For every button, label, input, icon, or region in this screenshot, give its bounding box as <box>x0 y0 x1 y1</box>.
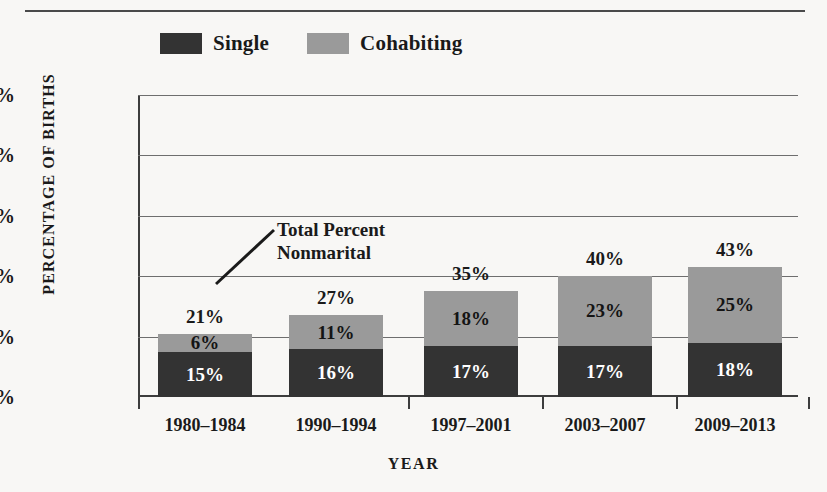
bar-group[interactable]: 18%25%43% <box>688 95 782 397</box>
bar-total-label: 21% <box>142 307 268 326</box>
chart-figure: Single Cohabiting PERCENTAGE OF BIRTHS 0… <box>0 0 827 492</box>
y-tick-label: 20% <box>0 327 15 347</box>
bar-segment-cohabiting[interactable]: 11% <box>289 315 383 348</box>
bar-segment-cohabiting[interactable]: 23% <box>558 276 652 345</box>
legend-swatch-icon-single <box>160 33 202 54</box>
bar-total-label: 27% <box>273 288 399 307</box>
bar-group[interactable]: 17%18%35% <box>424 95 518 397</box>
bar-segment-label: 15% <box>186 365 224 384</box>
bar-segment-label: 23% <box>586 301 624 320</box>
bar-segment-label: 17% <box>452 362 490 381</box>
bar-total-label: 40% <box>542 249 668 268</box>
top-rule-divider <box>25 10 805 12</box>
bar-segment-single[interactable]: 17% <box>558 346 652 397</box>
bar-segment-label: 6% <box>191 333 220 352</box>
bar-segment-cohabiting[interactable]: 6% <box>158 334 252 352</box>
bar-segment-label: 11% <box>318 323 355 342</box>
x-axis-tick <box>408 397 410 409</box>
x-axis-label: 1980–1984 <box>130 415 280 436</box>
x-axis-tick <box>138 397 140 409</box>
y-tick-label: 0% <box>0 387 15 407</box>
bar-segment-single[interactable]: 16% <box>289 349 383 397</box>
bar-segment-label: 18% <box>452 309 490 328</box>
bar-segment-label: 18% <box>716 360 754 379</box>
y-axis-title: PERCENTAGE OF BIRTHS <box>40 39 58 329</box>
legend-item-single[interactable]: Single <box>160 31 269 56</box>
annotation-label: Total Percent Nonmarital <box>277 218 385 264</box>
bar-total-label: 35% <box>408 264 534 283</box>
x-axis-title: YEAR <box>0 455 827 473</box>
bar-total-label: 43% <box>672 240 798 259</box>
legend-label-single: Single <box>213 31 269 56</box>
legend-label-cohabiting: Cohabiting <box>360 31 462 56</box>
x-axis-label: 1997–2001 <box>396 415 546 436</box>
x-axis-label: 2009–2013 <box>660 415 810 436</box>
bar-segment-label: 16% <box>317 363 355 382</box>
x-axis-tick <box>808 397 810 409</box>
bar-segment-label: 25% <box>716 295 754 314</box>
annotation-leader-line <box>214 228 276 286</box>
bar-segment-single[interactable]: 18% <box>688 343 782 397</box>
y-tick-label: 100% <box>0 85 15 105</box>
bar-segment-label: 17% <box>586 362 624 381</box>
bar-segment-single[interactable]: 15% <box>158 352 252 397</box>
y-tick-label: 40% <box>0 266 15 286</box>
y-tick-label: 60% <box>0 206 15 226</box>
legend-swatch-icon-cohabiting <box>307 33 349 54</box>
x-axis-tick <box>542 397 544 409</box>
y-tick-label: 80% <box>0 145 15 165</box>
bar-segment-cohabiting[interactable]: 18% <box>424 291 518 345</box>
x-axis-tick <box>676 397 678 409</box>
x-axis-label: 1990–1994 <box>261 415 411 436</box>
bar-group[interactable]: 17%23%40% <box>558 95 652 397</box>
legend-item-cohabiting[interactable]: Cohabiting <box>307 31 462 56</box>
bar-segment-single[interactable]: 17% <box>424 346 518 397</box>
chart-legend: Single Cohabiting <box>160 30 500 56</box>
bar-segment-cohabiting[interactable]: 25% <box>688 267 782 343</box>
x-axis-label: 2003–2007 <box>530 415 680 436</box>
